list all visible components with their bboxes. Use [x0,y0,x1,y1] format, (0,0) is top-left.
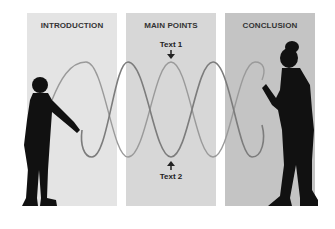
rope-wave-a [52,62,264,157]
text-2-label: Text 2 [151,172,191,181]
right-person-silhouette [262,41,318,206]
rope-wave-b [81,62,263,157]
rope-diagram [0,0,335,229]
text-1-label: Text 1 [151,40,191,49]
left-person-silhouette [22,77,80,206]
